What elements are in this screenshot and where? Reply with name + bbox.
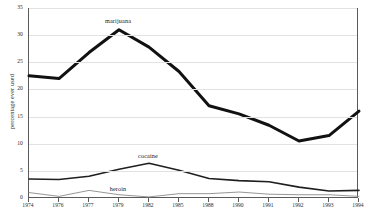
series-line-heroin: [29, 190, 359, 197]
y-tick-label: 5: [1, 168, 23, 174]
y-tick-label: 10: [1, 141, 23, 147]
series-label-marijuana: marijuana: [88, 17, 148, 24]
gridline: [29, 171, 357, 172]
series-line-cocaine: [29, 163, 359, 191]
y-tick-label: 0: [1, 195, 23, 201]
x-tick-label: 1994: [338, 203, 368, 209]
series-label-cocaine: cocaine: [118, 152, 178, 159]
series-label-heroin: heroin: [88, 185, 148, 192]
y-tick-label: 35: [1, 5, 23, 11]
series-lines: [29, 8, 359, 198]
plot-area: [28, 8, 358, 198]
y-axis-tick-labels: 05101520253035: [0, 0, 26, 214]
gridline: [29, 144, 357, 145]
gridline: [29, 8, 357, 9]
gridline: [29, 117, 357, 118]
gridline: [29, 62, 357, 63]
gridline: [29, 35, 357, 36]
gridline: [29, 89, 357, 90]
y-tick-label: 30: [1, 32, 23, 38]
y-tick-label: 15: [1, 114, 23, 120]
y-tick-label: 20: [1, 86, 23, 92]
series-line-marijuana: [29, 30, 359, 141]
y-tick-label: 25: [1, 59, 23, 65]
chart-container: percentage ever used 05101520253035 1974…: [0, 0, 368, 214]
